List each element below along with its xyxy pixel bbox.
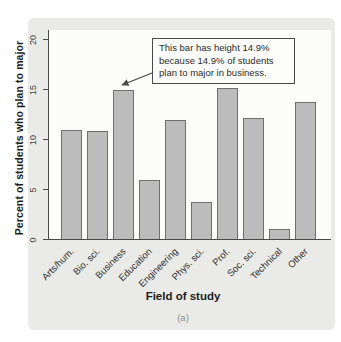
bar-engineering: [165, 120, 186, 239]
y-tick-label-text: 15: [28, 84, 38, 94]
figure-caption: (a): [48, 312, 318, 323]
annotation-callout: This bar has height 14.9% because 14.9% …: [152, 38, 295, 84]
y-tick-label-text: 10: [28, 134, 38, 144]
y-tick-label-text: 5: [28, 187, 38, 192]
bar-business: [113, 90, 134, 239]
y-tick-mark: [43, 139, 48, 140]
y-tick-label-text: 20: [28, 34, 38, 44]
bar-other: [295, 102, 316, 239]
y-tick-mark: [43, 39, 48, 40]
bar-soc-sci: [243, 118, 264, 239]
bar-prof: [217, 88, 238, 239]
y-tick-mark: [43, 239, 48, 240]
bar-phys-sci: [191, 202, 212, 239]
bar-arts-hum: [61, 130, 82, 239]
bar-education: [139, 180, 160, 239]
y-tick-mark: [43, 189, 48, 190]
y-tick-mark: [43, 89, 48, 90]
figure: 05101520 Arts/hum.Bio. sci.BusinessEduca…: [0, 0, 341, 342]
y-axis-title: Percent of students who plan to major: [13, 41, 25, 235]
bar-technical: [269, 229, 290, 239]
bar-bio-sci: [87, 131, 108, 239]
x-axis-title: Field of study: [48, 290, 318, 302]
y-tick-label-text: 0: [28, 237, 38, 242]
